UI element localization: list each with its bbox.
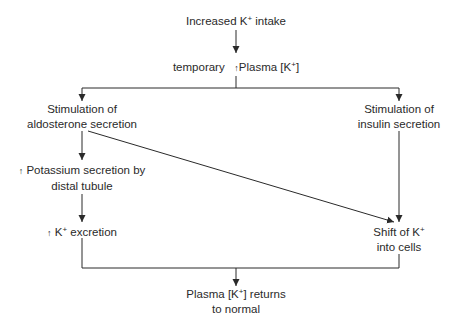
node-text: Increased K [186,15,247,27]
node-shift-into-cells: Shift of K+ into cells [373,225,424,255]
node-text: Plasma [K [186,288,238,300]
node-aldosterone: Stimulation of aldosterone secretion [27,102,137,132]
node-temporary-plasma: temporary ↑Plasma [K+] [173,60,299,76]
node-text: Plasma [K [239,61,291,73]
node-text: insulin secretion [358,117,440,132]
node-excretion: ↑ K+ excretion [47,225,117,241]
node-text: Potassium secretion by [26,164,145,176]
node-insulin: Stimulation of insulin secretion [358,102,440,132]
node-text: excretion [67,226,117,238]
node-text: ] [296,61,299,73]
up-arrow-icon: ↑ [19,166,24,176]
node-text: distal tubule [19,179,146,194]
node-text: temporary [173,61,225,73]
node-text: ] returns [243,288,285,300]
flowchart-canvas: Increased K+ intake temporary ↑Plasma [K… [0,0,457,322]
node-returns-to-normal: Plasma [K+] returns to normal [186,287,285,317]
node-text: Stimulation of [358,102,440,117]
node-text: Shift of K [373,226,420,238]
connector-lines [0,0,457,322]
node-text: to normal [186,302,285,317]
node-text: into cells [373,240,424,255]
superscript-plus: + [420,225,425,234]
node-text: aldosterone secretion [27,117,137,132]
node-increased-intake: Increased K+ intake [186,14,286,29]
node-text: intake [252,15,286,27]
node-potassium-secretion: ↑ Potassium secretion by distal tubule [19,163,146,194]
up-arrow-icon: ↑ [47,228,52,238]
node-text: Stimulation of [27,102,137,117]
